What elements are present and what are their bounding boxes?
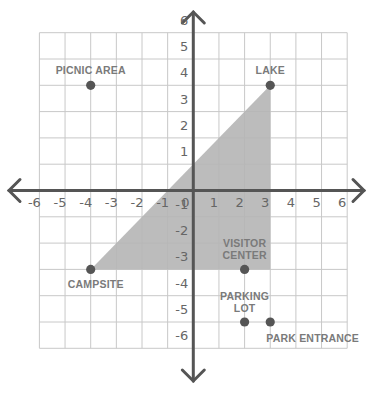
y-tick-label: -4: [175, 276, 188, 291]
location-dot-icon: [86, 265, 95, 274]
y-tick-label: -5: [175, 302, 188, 317]
x-tick-label: 5: [312, 195, 320, 210]
y-tick-label: 1: [180, 144, 188, 159]
location-label: PARKING: [220, 290, 269, 302]
x-tick-label: 6: [338, 195, 346, 210]
y-tick-label: -2: [175, 223, 188, 238]
x-tick-label: 4: [287, 195, 295, 210]
x-tick-label: 1: [210, 195, 218, 210]
location-dot-icon: [240, 317, 249, 326]
x-tick-label: -2: [131, 195, 144, 210]
location-label: LOT: [234, 302, 256, 314]
x-tick-label: -1: [156, 195, 169, 210]
location-park-entrance: PARK ENTRANCE: [266, 317, 359, 344]
location-dot-icon: [266, 317, 275, 326]
location-label: CENTER: [222, 249, 267, 261]
y-tick-label: 3: [180, 92, 188, 107]
y-tick-label: -1: [175, 197, 188, 212]
x-tick-label: -5: [54, 195, 67, 210]
location-label: VISITOR: [223, 237, 266, 249]
x-tick-label: -3: [105, 195, 118, 210]
coordinate-grid: -6-5-4-3-2-10123456654321-1-2-3-4-5-6 PI…: [0, 0, 373, 397]
location-dot-icon: [86, 81, 95, 90]
y-tick-label: -3: [175, 249, 188, 264]
y-tick-label: 6: [180, 13, 188, 28]
y-tick-label: 5: [180, 39, 188, 54]
x-tick-label: 3: [261, 195, 269, 210]
location-label: PICNIC AREA: [56, 64, 126, 76]
location-label: CAMPSITE: [68, 278, 124, 290]
x-tick-label: -6: [28, 195, 41, 210]
location-label: LAKE: [256, 64, 285, 76]
x-tick-label: -4: [79, 195, 92, 210]
location-parking-lot: PARKINGLOT: [220, 290, 269, 327]
x-tick-label: 2: [235, 195, 243, 210]
y-tick-label: -6: [175, 328, 188, 343]
y-tick-label: 2: [180, 118, 188, 133]
y-tick-label: 4: [180, 65, 188, 80]
location-label: PARK ENTRANCE: [266, 332, 359, 344]
location-dot-icon: [266, 81, 275, 90]
location-dot-icon: [240, 265, 249, 274]
